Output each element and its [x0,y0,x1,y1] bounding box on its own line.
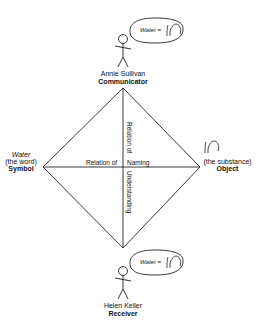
diamond-edge-bottom-left [43,167,123,248]
receiver-role: Receiver [93,310,153,318]
bubble-text-communicator: Water = [140,27,161,33]
stick-figure-communicator-icon [115,35,131,68]
diamond-edge-bottom-right [123,167,200,248]
bubble-text-receiver: Water = [140,259,161,265]
diamond-edge-top-right [123,88,200,167]
stick-figure-receiver-icon [115,267,131,300]
bubble-equals: = [158,27,162,33]
hand-sign-object-icon [205,141,219,153]
bubble-word: Water [140,259,156,265]
vertical-label-bottom: Understanding [126,171,133,213]
horizontal-label-right: Naming [127,159,149,166]
horizontal-label-left: Relation of [86,159,117,166]
diamond-edge-top-left [43,88,123,167]
symbol-role: Symbol [2,165,40,173]
communicator-role: Communicator [88,78,158,86]
object-role: Object [200,165,255,173]
communicator-name: Annie Sullivan [93,70,153,78]
vertical-label-top: Relation of [126,122,133,153]
bubble-word: Water [140,27,156,33]
bubble-equals: = [158,259,162,265]
receiver-role-text: Receiver [108,310,137,317]
receiver-name: Helen Keller [93,302,153,310]
